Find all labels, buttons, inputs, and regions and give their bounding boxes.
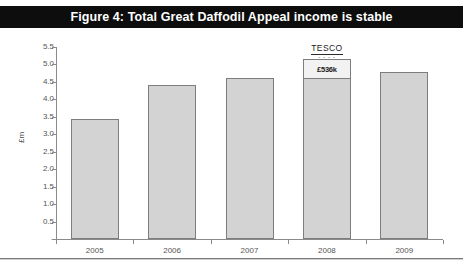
y-axis-tick <box>52 169 56 170</box>
y-axis-tick <box>52 222 56 223</box>
bar-2007[interactable] <box>226 78 274 239</box>
y-tick-label: 5.5 <box>30 43 54 51</box>
figure-title: Figure 4: Total Great Daffodil Appeal in… <box>70 10 392 24</box>
y-axis-tick <box>52 187 56 188</box>
y-axis-tick <box>52 117 56 118</box>
y-axis-tick <box>52 47 56 48</box>
y-tick-label: 1.5 <box>30 183 54 191</box>
y-axis-tick <box>52 64 56 65</box>
y-axis-tick <box>52 82 56 83</box>
tesco-annotation: TESCO- - - - <box>297 37 357 60</box>
x-axis-tick <box>443 240 444 244</box>
bar-chart: £m -0.51.01.52.02.53.03.54.04.55.05.5 20… <box>0 28 463 260</box>
segment-value-label: £536k <box>317 65 337 74</box>
y-tick-label: 3.0 <box>30 130 54 138</box>
y-axis-line <box>56 47 57 240</box>
tesco-wordmark: TESCO <box>311 43 342 55</box>
x-axis-tick <box>133 240 134 244</box>
y-axis-tick-labels: -0.51.01.52.02.53.03.54.04.55.05.5 <box>28 28 54 260</box>
x-axis-line <box>56 239 443 240</box>
x-axis-tick <box>288 240 289 244</box>
y-tick-label: 0.5 <box>30 218 54 226</box>
figure-container: · · · · · · Figure 4: Total Great Daffod… <box>0 0 463 267</box>
y-axis-tick <box>52 204 56 205</box>
plot-area: 200520062007TESCO- - - -£536k20082009 <box>56 28 443 260</box>
x-tick-label-2005: 2005 <box>70 246 120 255</box>
x-axis-tick <box>56 240 57 244</box>
y-axis-tick <box>52 134 56 135</box>
y-tick-label: 5.0 <box>30 60 54 68</box>
bar-2009[interactable] <box>380 72 428 239</box>
x-axis-tick <box>366 240 367 244</box>
y-tick-label: - <box>30 235 54 243</box>
y-tick-label: 4.5 <box>30 78 54 86</box>
x-tick-label-2007: 2007 <box>225 246 275 255</box>
y-tick-label: 1.0 <box>30 200 54 208</box>
y-tick-label: 2.5 <box>30 148 54 156</box>
bar-segment-tesco-2008[interactable]: £536k <box>304 60 350 79</box>
y-axis-tick <box>52 99 56 100</box>
figure-title-bar: Figure 4: Total Great Daffodil Appeal in… <box>0 6 463 28</box>
x-tick-label-2009: 2009 <box>379 246 429 255</box>
x-tick-label-2008: 2008 <box>302 246 352 255</box>
bar-2008[interactable]: £536k <box>303 59 351 239</box>
bar-2005[interactable] <box>71 119 119 239</box>
clipped-text: · · · · · · <box>60 0 245 2</box>
x-axis-tick <box>211 240 212 244</box>
bar-2006[interactable] <box>148 85 196 239</box>
bottom-divider-shadow <box>0 259 463 260</box>
y-tick-label: 2.0 <box>30 165 54 173</box>
y-axis-label: £m <box>17 131 26 145</box>
y-axis-tick <box>52 152 56 153</box>
x-tick-label-2006: 2006 <box>147 246 197 255</box>
y-tick-label: 3.5 <box>30 113 54 121</box>
y-tick-label: 4.0 <box>30 95 54 103</box>
